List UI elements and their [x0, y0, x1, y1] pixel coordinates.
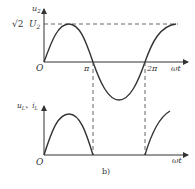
- bottom-origin-label: O: [36, 157, 44, 167]
- bottom-x-axis-label: ωt: [172, 156, 183, 165]
- rectified-curve-2: [145, 111, 170, 155]
- top-x-axis-label: ωt: [171, 64, 182, 73]
- rectified-curve-1: [44, 114, 93, 155]
- bottom-y-axis-label: uL、iL: [17, 101, 39, 111]
- top-y-axis-label: u2: [32, 4, 41, 14]
- rectifier-waveform-diagram: u2 √2 U2 O π 2π ωt uL、iL O ωt b): [0, 0, 195, 189]
- tick-pi: π: [83, 64, 90, 73]
- peak-label-coef: √2: [12, 19, 23, 29]
- top-origin-label: O: [36, 63, 44, 73]
- tick-2pi: 2π: [146, 64, 158, 73]
- bottom-plot: uL、iL O ωt: [17, 101, 188, 167]
- peak-label: U2: [29, 19, 41, 30]
- top-plot: u2 √2 U2 O π 2π ωt: [12, 4, 188, 100]
- figure-caption: b): [102, 167, 110, 176]
